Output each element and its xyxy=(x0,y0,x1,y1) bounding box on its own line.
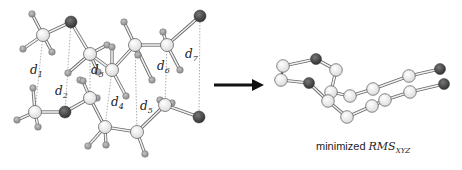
hetero-atom xyxy=(304,78,315,89)
hydrogen-atom xyxy=(103,142,110,149)
distance-line-d7 xyxy=(199,16,200,117)
hetero-atom xyxy=(311,54,322,65)
right-molecule-panel: minimized RMSXYZ xyxy=(275,54,450,156)
hydrogen-atom xyxy=(135,52,142,59)
hydrogen-atom xyxy=(29,11,36,18)
carbon-atom xyxy=(341,111,354,124)
carbon-atom xyxy=(366,100,379,113)
right-bonds xyxy=(281,59,444,117)
hydrogen-atom xyxy=(80,78,87,85)
hydrogen-atom xyxy=(14,117,21,124)
hydrogen-atom xyxy=(123,93,130,100)
carbon-atom xyxy=(330,64,343,77)
hetero-atom xyxy=(435,64,446,75)
carbon-atom xyxy=(106,64,119,77)
carbon-atom xyxy=(161,39,174,52)
distance-label-d4: d4 xyxy=(111,95,124,111)
carbon-atom xyxy=(275,74,288,87)
carbon-atom xyxy=(84,48,97,61)
carbon-atom xyxy=(29,106,42,119)
carbon-atom xyxy=(129,39,142,52)
hetero-atom xyxy=(59,106,71,118)
distance-label-d7: d7 xyxy=(185,47,199,63)
hydrogen-atom xyxy=(109,44,116,51)
hydrogen-atom xyxy=(65,70,72,77)
carbon-atom xyxy=(277,60,290,73)
arrow-head-icon xyxy=(252,79,264,91)
hydrogen-atom xyxy=(177,67,184,74)
hydrogen-atom xyxy=(149,77,156,84)
distance-label-d2: d2 xyxy=(55,84,68,100)
hetero-atom xyxy=(439,79,450,90)
hydrogen-atom xyxy=(35,124,42,131)
carbon-atom xyxy=(367,83,380,96)
caption: minimized RMSXYZ xyxy=(316,140,410,155)
left-molecule-panel: d1 d2 d3 d4 d5 d6 d7 xyxy=(14,10,206,157)
carbon-atom xyxy=(159,99,172,112)
hetero-atom xyxy=(65,16,77,28)
hydrogen-atom xyxy=(85,143,92,150)
distance-line-d6 xyxy=(165,45,167,105)
carbon-atom xyxy=(379,94,392,107)
hydrogen-atom xyxy=(49,49,56,56)
distance-label-d3: d3 xyxy=(91,63,104,79)
distance-label-d6: d6 xyxy=(157,59,170,75)
distance-label-d1: d1 xyxy=(30,63,43,79)
carbon-atom xyxy=(344,90,357,103)
figure-canvas: d1 d2 d3 d4 d5 d6 d7 minimized RMSXYZ xyxy=(0,0,462,170)
hydrogen-atom xyxy=(30,85,37,92)
hetero-atom xyxy=(194,10,206,22)
left-atoms xyxy=(14,10,206,157)
hetero-atom xyxy=(193,111,205,123)
carbon-atom xyxy=(403,70,416,83)
distance-label-d5: d5 xyxy=(140,99,153,115)
transform-arrow xyxy=(214,79,264,91)
carbon-atom xyxy=(322,95,335,108)
hydrogen-atom xyxy=(121,19,128,26)
carbon-atom xyxy=(404,86,417,99)
hydrogen-atom xyxy=(142,151,149,158)
carbon-atom xyxy=(37,29,50,42)
carbon-atom xyxy=(131,126,144,139)
hydrogen-atom xyxy=(20,46,27,53)
hydrogen-atom xyxy=(160,29,167,36)
carbon-atom xyxy=(84,92,97,105)
carbon-atom xyxy=(99,121,112,134)
